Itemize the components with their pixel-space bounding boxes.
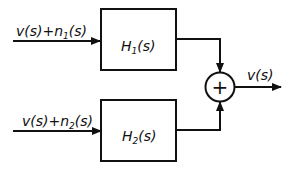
output-label: v(s): [247, 67, 274, 83]
h2-to-summer-arrow: [176, 102, 220, 130]
block-h2-label: H2(s): [122, 128, 156, 146]
input-1-label: v(s)+n1(s): [16, 23, 87, 41]
block-h1-label: H1(s): [121, 38, 155, 56]
summer-plus-icon: +: [212, 75, 229, 99]
block-diagram: v(s)+n1(s) H1(s) v(s)+n2(s) H2(s) + v(s): [0, 0, 290, 171]
input-2-label: v(s)+n2(s): [22, 113, 93, 131]
h1-to-summer-arrow: [176, 39, 220, 72]
